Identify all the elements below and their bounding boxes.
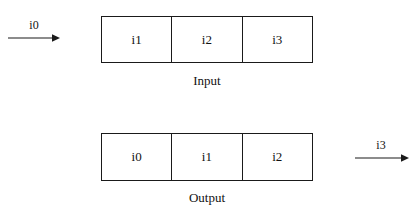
- input-cell: i2: [172, 17, 242, 62]
- input-cell: i3: [243, 17, 312, 62]
- input-arrow-label: i0: [14, 19, 54, 31]
- output-arrow: i3: [355, 139, 409, 169]
- output-cell: i0: [102, 134, 172, 180]
- arrow-right-icon: [8, 33, 60, 43]
- input-cell: i1: [102, 17, 172, 62]
- output-buffer: i0 i1 i2: [101, 133, 313, 181]
- input-buffer: i1 i2 i3: [101, 16, 313, 63]
- input-arrow: i0: [8, 19, 60, 49]
- output-cell: i2: [243, 134, 312, 180]
- output-arrow-label: i3: [361, 139, 401, 151]
- input-buffer-caption: Input: [101, 74, 313, 87]
- diagram-canvas: i0 i1 i2 i3 Input i0 i1 i2 Output i3: [0, 0, 416, 216]
- output-buffer-caption: Output: [101, 191, 313, 204]
- output-cell: i1: [172, 134, 242, 180]
- arrow-right-icon: [355, 153, 409, 163]
